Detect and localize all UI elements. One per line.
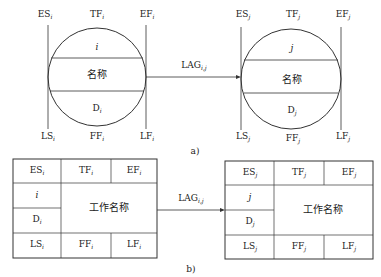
arrow-a-label: LAGi,j — [181, 60, 206, 73]
label-es-i: ESi — [38, 9, 53, 22]
caption-a: a) — [191, 146, 200, 156]
cell-id-j: j — [249, 192, 252, 202]
label-ls-i: LSi — [41, 131, 55, 144]
cell-id-i: i — [36, 190, 39, 200]
caption-b: b) — [186, 264, 195, 274]
cell-ff-j: FFj — [292, 241, 306, 254]
node-a-right-duration: Dj — [287, 105, 296, 118]
cell-ls-i: LSi — [30, 239, 44, 252]
label-lf-i: LFi — [140, 131, 154, 144]
cell-lf-i: LFi — [127, 239, 141, 252]
cell-es-i: ESi — [30, 165, 45, 178]
label-ef-j: EFj — [336, 9, 351, 22]
cell-ff-i: FFi — [79, 239, 93, 252]
cell-ef-j: EFj — [342, 167, 357, 180]
label-ls-j: LSj — [236, 131, 250, 144]
cell-lf-j: LFj — [342, 241, 356, 254]
label-ff-j: FFj — [286, 133, 300, 146]
node-a-left-name: 名称 — [87, 70, 107, 80]
cell-duration-i: Di — [32, 214, 41, 227]
arrow-b-label: LAGi,j — [178, 193, 203, 206]
cell-tf-j: TFj — [292, 167, 306, 180]
node-a-right-id: j — [291, 43, 294, 53]
arrow-b — [157, 208, 225, 212]
cell-name-i: 工作名称 — [89, 203, 129, 213]
node-a-right-name: 名称 — [282, 75, 302, 85]
cell-tf-i: TFi — [79, 165, 93, 178]
node-a-left-id: i — [96, 42, 99, 52]
label-tf-i: TFi — [90, 9, 104, 22]
cell-ls-j: LSj — [243, 241, 257, 254]
cell-ef-i: EFi — [127, 165, 142, 178]
arrow-a — [146, 75, 241, 79]
cell-duration-j: Dj — [245, 216, 254, 229]
label-tf-j: TFj — [286, 9, 300, 22]
label-ff-i: FFi — [90, 131, 104, 144]
label-lf-j: LFj — [336, 131, 350, 144]
diagram-lines — [0, 0, 381, 277]
cell-name-j: 工作名称 — [303, 205, 343, 215]
node-a-left-duration: Di — [92, 103, 101, 116]
cell-es-j: ESj — [243, 167, 258, 180]
label-es-j: ESj — [236, 9, 251, 22]
label-ef-i: EFi — [140, 9, 155, 22]
